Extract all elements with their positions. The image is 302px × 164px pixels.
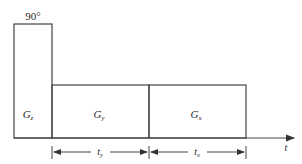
gx-label: Gx [190, 108, 202, 122]
diagram-canvas: 90° Gz Gy Gx ty tx t [0, 0, 302, 164]
pulse-sequence-diagram: 90° Gz Gy Gx ty tx t [0, 0, 302, 164]
axis-label-t: t [285, 142, 288, 153]
gz-label: Gz [23, 108, 34, 122]
tx-label: tx [194, 146, 200, 158]
ty-label: ty [97, 146, 103, 158]
pulse-label: 90° [25, 10, 40, 22]
gy-label: Gy [93, 108, 105, 122]
